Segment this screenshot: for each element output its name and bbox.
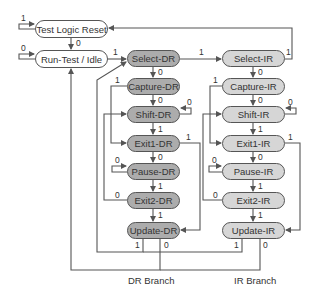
state-test-logic-reset: Test Logic Reset xyxy=(35,20,108,38)
edge-label: 0 xyxy=(115,191,120,200)
edge-label: 1 xyxy=(199,48,204,57)
state-run-test-idle: Run-Test / Idle xyxy=(35,50,108,68)
state-pause-ir: Pause-IR xyxy=(222,163,285,180)
edge-label: 0 xyxy=(158,153,163,162)
edge-label: 0 xyxy=(258,68,263,77)
edge-label: 1 xyxy=(21,14,26,23)
state-update-dr: Update-DR xyxy=(127,222,180,239)
edge-label: 0 xyxy=(288,98,293,107)
edge-label: 1 xyxy=(258,182,263,191)
edge-label: 0 xyxy=(258,96,263,105)
tap-state-diagram: Test Logic Reset Run-Test / Idle Select-… xyxy=(0,0,310,299)
edge-label: 1 xyxy=(158,211,163,220)
state-capture-ir: Capture-IR xyxy=(222,78,285,95)
edge-label: 1 xyxy=(288,133,293,142)
state-shift-ir: Shift-IR xyxy=(222,106,285,123)
edge-label: 0 xyxy=(158,96,163,105)
edge-label: 1 xyxy=(113,48,118,57)
edge-label: 1 xyxy=(158,125,163,134)
edge-label: 1 xyxy=(213,76,218,85)
state-select-dr: Select-DR xyxy=(127,50,180,67)
edge-label: 0 xyxy=(213,191,218,200)
state-pause-dr: Pause-DR xyxy=(127,163,180,180)
state-exit2-ir: Exit2-IR xyxy=(222,192,285,209)
edge-label: 1 xyxy=(115,76,120,85)
state-exit1-ir: Exit1-IR xyxy=(222,135,285,152)
state-shift-dr: Shift-DR xyxy=(127,106,180,123)
edge-label: 1 xyxy=(258,125,263,134)
state-capture-dr: Capture-DR xyxy=(127,78,180,95)
state-update-ir: Update-IR xyxy=(222,222,285,239)
edge-label: 1 xyxy=(258,211,263,220)
edge-label: 0 xyxy=(76,39,81,48)
edge-label: 1 xyxy=(135,241,140,250)
edge-label: 0 xyxy=(158,68,163,77)
edge-label: 0 xyxy=(258,153,263,162)
edge-label: 0 xyxy=(187,98,192,107)
edge-label: 1 xyxy=(158,182,163,191)
state-exit1-dr: Exit1-DR xyxy=(127,135,180,152)
ir-branch-label: IR Branch xyxy=(234,275,276,286)
edge-label: 0 xyxy=(21,44,26,53)
edge-label: 1 xyxy=(186,133,191,142)
edge-label: 0 xyxy=(164,241,169,250)
state-select-ir: Select-IR xyxy=(222,50,285,67)
dr-branch-label: DR Branch xyxy=(128,275,174,286)
state-exit2-dr: Exit2-DR xyxy=(127,192,180,209)
edge-label: 1 xyxy=(286,48,291,57)
edge-label: 0 xyxy=(212,156,217,165)
edge-label: 0 xyxy=(263,241,268,250)
edge-label: 0 xyxy=(115,156,120,165)
edge-label: 1 xyxy=(234,241,239,250)
